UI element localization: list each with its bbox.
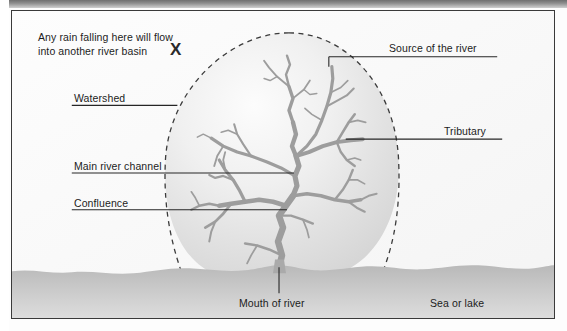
main-river-channel-upper-2 [289,87,293,123]
source-of-the-river-label: Source of the river [389,42,477,54]
rain-note-line-2: into another river basin [38,45,173,59]
tributary-label: Tributary [444,125,486,137]
scan-edge-top [0,0,567,8]
main-river-channel-mid [292,122,296,156]
diagram-frame: Any rain falling here will flow into ano… [11,10,555,319]
sea-or-lake-label: Sea or lake [430,297,484,309]
diagram-stage: Any rain falling here will flow into ano… [0,0,567,331]
rain-note-line-1: Any rain falling here will flow [38,31,173,45]
watershed-label: Watershed [74,92,125,104]
scan-edge-left [0,0,9,331]
confluence-label: Confluence [74,197,128,209]
mouth-of-river-label: Mouth of river [239,297,305,309]
x-marker-icon: X [170,40,181,60]
rain-note: Any rain falling here will flow into ano… [38,31,173,58]
main-river-channel-label: Main river channel [74,160,162,172]
